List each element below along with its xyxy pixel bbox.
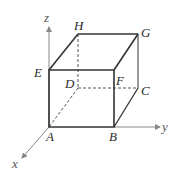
vertex-C: C — [141, 83, 150, 98]
vertex-G: G — [141, 25, 151, 40]
cube-diagram: z y x H G E D F C A B — [0, 0, 177, 176]
vertex-A: A — [45, 129, 54, 144]
x-axis — [22, 127, 49, 158]
vertex-E: E — [33, 65, 42, 80]
x-axis-label: x — [11, 156, 18, 171]
hidden-edges — [49, 34, 138, 127]
z-axis-label: z — [43, 10, 49, 25]
vertex-B: B — [109, 129, 117, 144]
visible-edges — [49, 34, 138, 127]
vertex-D: D — [64, 76, 75, 91]
y-axis-label: y — [160, 119, 168, 134]
vertex-F: F — [115, 73, 125, 88]
vertex-H: H — [73, 18, 84, 33]
